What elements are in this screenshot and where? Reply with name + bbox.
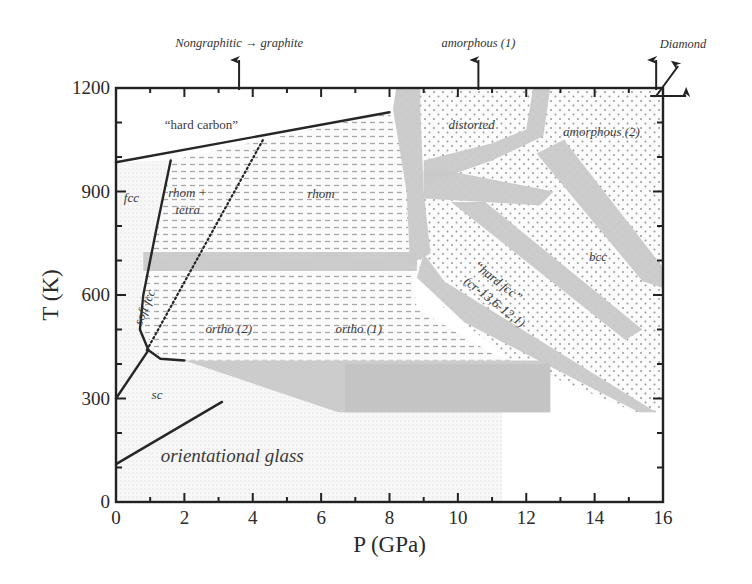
region-label-line: rhom + (168, 185, 207, 200)
region-label-rhom: rhom (308, 186, 335, 201)
arrow-diagonal-icon (656, 66, 678, 96)
x-tick-label: 16 (654, 507, 673, 528)
region-label-bcc: bcc (589, 249, 607, 264)
region-label-orientational-glass: orientational glass (161, 445, 304, 466)
region-label-line: tetra (176, 202, 201, 217)
x-tick-label: 10 (448, 507, 467, 528)
y-axis-title: T (K) (38, 269, 63, 320)
region-label-hard-carbon: “hard carbon” (165, 117, 238, 132)
region-label-sc: sc (152, 387, 163, 402)
phase-diagram-chart: “hard carbon” fcc rhom +tetra rhom disto… (0, 0, 752, 584)
x-tick-label: 2 (180, 507, 190, 528)
x-tick-label: 14 (585, 507, 605, 528)
y-tick-label: 900 (82, 181, 111, 202)
x-tick-label: 12 (517, 507, 536, 528)
y-tick-label: 1200 (72, 77, 110, 98)
x-tick-label: 8 (385, 507, 395, 528)
annotation-diamond: Diamond (659, 37, 707, 51)
y-tick-label: 600 (82, 284, 111, 305)
region-label-ortho-1: ortho (1) (335, 321, 382, 336)
band-low-T-block (345, 364, 550, 412)
region-label-ortho-2: ortho (2) (206, 321, 253, 336)
region-label-fcc: fcc (124, 190, 139, 205)
annotation-amorphous-1: amorphous (1) (441, 36, 515, 50)
y-tick-label: 300 (82, 388, 111, 409)
x-tick-label: 4 (248, 507, 258, 528)
annotation-nongraphitic-graphite: Nongraphitic → graphite (174, 36, 303, 50)
region-label-amorphous-2: amorphous (2) (563, 124, 640, 139)
band-horizontal-700K (143, 252, 417, 271)
x-axis-title: P (GPa) (353, 532, 426, 557)
x-tick-label: 6 (316, 507, 326, 528)
regions-layer (116, 88, 663, 502)
region-label-distorted: distorted (448, 117, 495, 132)
y-tick-label: 0 (101, 491, 111, 512)
x-tick-label: 0 (111, 507, 121, 528)
